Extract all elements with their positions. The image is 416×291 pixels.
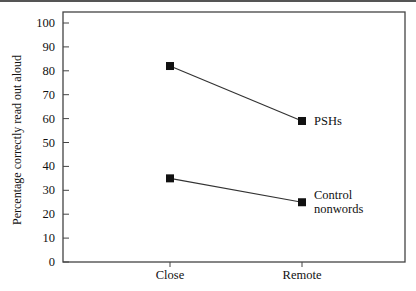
square-marker-icon — [298, 198, 306, 206]
y-tick-label: 90 — [43, 40, 56, 54]
plot-border — [63, 12, 405, 262]
y-tick-label: 10 — [43, 231, 56, 245]
x-tick-label: Remote — [283, 268, 322, 282]
x-axis: CloseRemote — [156, 262, 322, 282]
square-marker-icon — [166, 174, 174, 182]
series-pshs: PSHs — [166, 62, 342, 128]
y-tick-label: 40 — [43, 159, 56, 173]
series-line — [170, 66, 302, 121]
series-line — [170, 178, 302, 202]
series-label: nonwords — [314, 202, 363, 216]
y-tick-label: 30 — [43, 183, 56, 197]
y-tick-label: 20 — [43, 207, 56, 221]
series-group: PSHsControlnonwords — [166, 62, 363, 216]
y-tick-label: 60 — [43, 112, 56, 126]
y-tick-label: 100 — [36, 16, 55, 30]
line-chart: 0102030405060708090100 CloseRemote Perce… — [0, 0, 416, 291]
x-tick-label: Close — [156, 268, 185, 282]
square-marker-icon — [298, 117, 306, 125]
y-tick-label: 50 — [43, 136, 56, 150]
y-tick-label: 70 — [43, 88, 56, 102]
plot-frame — [63, 12, 405, 262]
series-label: PSHs — [314, 114, 342, 128]
y-tick-label: 0 — [49, 255, 55, 269]
y-tick-label: 80 — [43, 64, 56, 78]
series-control-nonwords: Controlnonwords — [166, 174, 363, 216]
square-marker-icon — [166, 62, 174, 70]
y-axis: 0102030405060708090100 — [36, 16, 69, 269]
series-label: Control — [314, 188, 353, 202]
y-axis-title: Percentage correctly read out aloud — [10, 55, 24, 225]
